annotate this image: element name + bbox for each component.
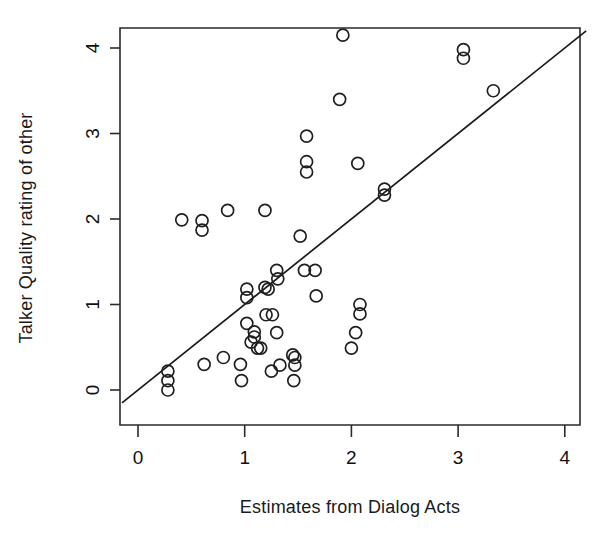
- data-point: [301, 130, 313, 142]
- plot-canvas: 01234 01234 Estimates from Dialog Acts T…: [0, 0, 611, 539]
- y-axis-tick-labels: 01234: [82, 42, 103, 395]
- x-axis-title: Estimates from Dialog Acts: [240, 497, 460, 517]
- data-point: [457, 52, 469, 64]
- data-points-group: [162, 29, 499, 396]
- data-point: [176, 214, 188, 226]
- data-point: [265, 365, 277, 377]
- data-point: [234, 358, 246, 370]
- data-point: [352, 157, 364, 169]
- data-point: [350, 327, 362, 339]
- y-tick-label-0: 0: [82, 385, 103, 396]
- data-point: [198, 358, 210, 370]
- x-tick-label-0: 0: [133, 447, 144, 468]
- y-tick-label-4: 4: [82, 42, 103, 53]
- data-point: [217, 352, 229, 364]
- data-point: [271, 327, 283, 339]
- data-point: [337, 29, 349, 41]
- plot-frame: [120, 28, 580, 425]
- scatter-plot-figure: 01234 01234 Estimates from Dialog Acts T…: [0, 0, 611, 539]
- x-tick-label-3: 3: [453, 447, 464, 468]
- y-axis-ticks: [110, 48, 120, 390]
- data-point: [310, 290, 322, 302]
- data-point: [487, 85, 499, 97]
- y-tick-label-3: 3: [82, 128, 103, 139]
- data-point: [334, 93, 346, 105]
- x-axis-tick-labels: 01234: [133, 447, 571, 468]
- data-point: [222, 204, 234, 216]
- data-point: [259, 204, 271, 216]
- y-axis-title: Talker Quality rating of other: [16, 112, 36, 343]
- x-tick-label-4: 4: [560, 447, 571, 468]
- x-axis-ticks: [138, 425, 565, 437]
- x-tick-label-1: 1: [239, 447, 250, 468]
- data-point: [345, 342, 357, 354]
- y-tick-label-2: 2: [82, 214, 103, 225]
- y-tick-label-1: 1: [82, 299, 103, 310]
- data-point: [236, 375, 248, 387]
- data-point: [294, 230, 306, 242]
- data-point: [288, 375, 300, 387]
- identity-line: [122, 31, 586, 403]
- data-point: [274, 359, 286, 371]
- x-tick-label-2: 2: [346, 447, 357, 468]
- identity-reference-line: [122, 31, 586, 403]
